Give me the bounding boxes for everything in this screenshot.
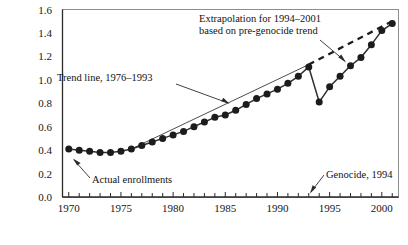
y-axis-tick-labels: 0.00.20.40.60.81.01.21.41.6 [38, 4, 52, 204]
y-tick-label: 0.0 [38, 191, 52, 203]
actual-enrollments-label: Actual enrollments [92, 174, 172, 185]
data-point-marker [201, 119, 208, 126]
data-point-marker [378, 27, 385, 34]
data-point-marker [347, 62, 354, 69]
data-point-marker [149, 138, 156, 145]
y-tick-label: 0.6 [38, 121, 52, 133]
data-point-marker [274, 86, 281, 93]
data-point-marker [190, 123, 197, 130]
trend-leader-line [176, 84, 228, 103]
data-point-marker [170, 131, 177, 138]
trend-arrowhead [221, 98, 229, 104]
extrapolation-label-line2: based on pre-genocide trend [199, 25, 318, 36]
trend-line-series [131, 65, 308, 149]
data-point-marker [305, 63, 312, 70]
y-tick-label: 1.2 [38, 50, 52, 62]
data-point-marker [284, 80, 291, 87]
y-tick-label: 1.4 [38, 27, 52, 39]
data-point-marker [295, 73, 302, 80]
data-point-marker [65, 145, 72, 152]
data-point-marker [159, 135, 166, 142]
genocide-label: Genocide, 1994 [326, 169, 393, 180]
x-tick-label: 1990 [266, 202, 289, 214]
data-point-marker [264, 90, 271, 97]
annotation-trend-line: Trend line, 1976–1993 [57, 72, 230, 104]
x-tick-label: 1980 [162, 202, 185, 214]
data-point-marker [253, 95, 260, 102]
y-tick-label: 0.2 [38, 168, 52, 180]
data-point-marker [326, 83, 333, 90]
x-tick-label: 1975 [110, 202, 133, 214]
data-point-marker [357, 54, 364, 61]
data-point-marker [211, 114, 218, 121]
x-axis-tick-marks [69, 192, 392, 197]
extrapolation-arrowhead [338, 54, 346, 62]
x-tick-label: 1970 [58, 202, 81, 214]
trend-line-label: Trend line, 1976–1993 [57, 72, 153, 83]
actual-arrowhead [73, 159, 81, 166]
annotation-actual-enrollments: Actual enrollments [73, 159, 172, 185]
data-point-marker [138, 142, 145, 149]
data-point-marker [337, 73, 344, 80]
annotation-genocide: Genocide, 1994 [310, 169, 393, 194]
data-point-marker [222, 111, 229, 118]
x-tick-label: 1995 [319, 202, 342, 214]
data-point-marker [76, 147, 83, 154]
chart-canvas: 0.00.20.40.60.81.01.21.41.6 197019751980… [0, 0, 408, 245]
extrapolation-series [309, 21, 392, 64]
data-point-marker [97, 149, 104, 156]
data-point-marker [86, 148, 93, 155]
data-point-markers [65, 20, 395, 156]
actual-enrollments-series [69, 24, 392, 153]
extrapolation-label-line1: Extrapolation for 1994–2001 [199, 13, 321, 24]
data-point-marker [232, 107, 239, 114]
enrollment-chart: 0.00.20.40.60.81.01.21.41.6 197019751980… [0, 0, 408, 245]
data-point-marker [180, 128, 187, 135]
y-tick-label: 1.0 [38, 74, 52, 86]
data-point-marker [316, 99, 323, 106]
annotation-extrapolation: Extrapolation for 1994–2001 based on pre… [199, 13, 346, 63]
y-tick-label: 0.8 [38, 97, 52, 109]
y-tick-label: 0.4 [38, 144, 52, 156]
data-point-marker [107, 149, 114, 156]
data-point-marker [128, 145, 135, 152]
data-point-marker [389, 20, 396, 27]
x-tick-label: 1985 [214, 202, 237, 214]
y-tick-label: 1.6 [38, 4, 52, 16]
x-tick-label: 2000 [371, 202, 394, 214]
data-point-marker [117, 148, 124, 155]
data-point-marker [243, 101, 250, 108]
data-point-marker [368, 41, 375, 48]
x-axis-tick-labels: 1970197519801985199019952000 [58, 202, 394, 214]
